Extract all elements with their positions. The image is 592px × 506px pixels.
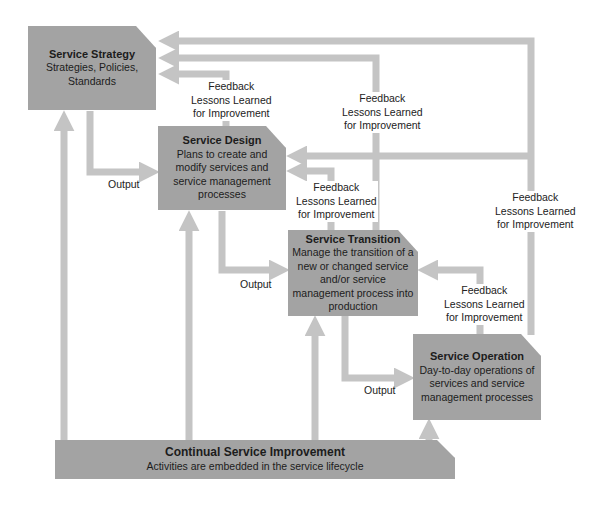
csi-title: Continual Service Improvement	[165, 446, 345, 460]
output-label-transition-to-operation: Output	[364, 384, 396, 396]
output-arrow-strategy-to-design	[90, 111, 150, 172]
feedback-label-line: Feedback	[191, 80, 272, 94]
output-arrow-transition-to-operation	[345, 316, 405, 378]
output-label-strategy-to-design: Output	[108, 178, 140, 190]
service-transition-title: Service Transition	[306, 233, 401, 247]
service-operation-box: Service Operation Day-to-day operations …	[413, 334, 541, 420]
service-design-desc: Plans to create and modify services and …	[157, 148, 287, 202]
feedback-label-operation-to-transition: Feedback Lessons Learned for Improvement	[443, 284, 526, 325]
feedback-label-line: for Improvement	[191, 107, 272, 121]
feedback-label-transition-to-strategy: Feedback Lessons Learned for Improvement	[341, 92, 424, 133]
service-design-box: Service Design Plans to create and modif…	[158, 126, 286, 210]
feedback-label-transition-to-design: Feedback Lessons Learned for Improvement	[295, 181, 378, 222]
service-strategy-title: Service Strategy	[49, 48, 135, 62]
feedback-label-design-to-strategy: Feedback Lessons Learned for Improvement	[190, 80, 273, 121]
feedback-label-line: Lessons Learned	[495, 205, 576, 219]
feedback-label-line: Lessons Learned	[342, 106, 423, 120]
feedback-label-line: for Improvement	[495, 218, 576, 232]
service-design-title: Service Design	[183, 134, 262, 148]
csi-desc: Activities are embedded in the service l…	[142, 460, 367, 474]
service-transition-box: Service Transition Manage the transition…	[288, 230, 418, 316]
service-transition-desc: Manage the transition of a new or change…	[286, 246, 420, 314]
feedback-label-line: Feedback	[342, 92, 423, 106]
feedback-label-line: Feedback	[495, 191, 576, 205]
service-operation-title: Service Operation	[430, 350, 524, 364]
feedback-label-line: Feedback	[444, 284, 525, 298]
feedback-label-line: Lessons Learned	[296, 195, 377, 209]
feedback-label-line: Lessons Learned	[191, 94, 272, 108]
continual-service-improvement-box: Continual Service Improvement Activities…	[55, 440, 455, 479]
service-strategy-desc: Strategies, Policies, Standards	[38, 61, 146, 88]
feedback-label-operation-to-design: Feedback Lessons Learned for Improvement	[494, 191, 577, 232]
itil-lifecycle-diagram: Service Strategy Strategies, Policies, S…	[0, 0, 592, 506]
feedback-label-line: for Improvement	[296, 208, 377, 222]
output-arrow-design-to-transition	[222, 211, 280, 270]
feedback-label-line: Feedback	[296, 181, 377, 195]
feedback-label-line: for Improvement	[444, 311, 525, 325]
feedback-label-line: for Improvement	[342, 119, 423, 133]
output-label-design-to-transition: Output	[240, 278, 272, 290]
service-strategy-box: Service Strategy Strategies, Policies, S…	[28, 26, 156, 110]
service-operation-desc: Day-to-day operations of services and se…	[412, 364, 542, 405]
feedback-label-line: Lessons Learned	[444, 298, 525, 312]
